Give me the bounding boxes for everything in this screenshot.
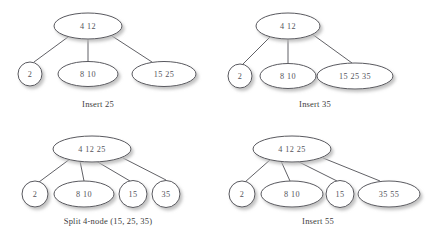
tree-node[interactable]: 4 12 [256, 13, 320, 39]
panel-nodes: 4 12 2528 101535 55 [229, 136, 420, 208]
node-keys-label: 8 10 [280, 72, 296, 81]
tree-edge [34, 37, 68, 62]
node-keys-label: 8 10 [284, 190, 300, 199]
node-keys-label: 2 [33, 190, 38, 199]
tree-node[interactable]: 2 [22, 181, 48, 207]
tree-node[interactable]: 8 10 [58, 62, 118, 87]
panel-caption: Insert 55 [302, 216, 334, 226]
nodes-layer: 4 1228 1015 254 1228 1015 25 354 12 2528… [18, 13, 420, 208]
panel-caption: Split 4-node (15, 25, 35) [64, 216, 153, 226]
panel-edges [245, 158, 380, 182]
tree-edge [123, 158, 166, 180]
tree-diagram-canvas: 4 1228 1015 254 1228 1015 25 354 12 2528… [0, 0, 436, 239]
tree-node[interactable]: 4 12 25 [53, 136, 131, 162]
panel-nodes: 4 12 2528 101535 [22, 136, 180, 208]
tree-node[interactable]: 8 10 [261, 181, 323, 207]
panel-caption: Insert 25 [82, 99, 114, 109]
tree-edge [245, 159, 271, 182]
tree-node[interactable]: 2 [228, 64, 252, 88]
panel-nodes: 4 1228 1015 25 35 [228, 13, 393, 89]
node-keys-label: 2 [240, 190, 245, 199]
node-keys-label: 4 12 25 [78, 145, 105, 154]
tree-node[interactable]: 15 [326, 181, 354, 208]
node-keys-label: 2 [28, 70, 33, 79]
tree-node[interactable]: 2 [229, 181, 255, 207]
tree-edge [312, 34, 352, 63]
tree-node[interactable]: 15 25 [132, 62, 196, 87]
tree-node[interactable]: 2 [18, 62, 42, 86]
node-keys-label: 35 55 [379, 190, 399, 199]
tree-node[interactable]: 35 55 [358, 181, 420, 207]
node-keys-label: 35 [162, 190, 171, 199]
tree-node[interactable]: 35 [152, 181, 180, 208]
node-keys-label: 8 10 [76, 190, 92, 199]
tree-node[interactable]: 8 10 [54, 181, 114, 207]
node-keys-label: 4 12 25 [278, 145, 305, 154]
tree-edge [112, 36, 152, 62]
tree-node[interactable]: 4 12 25 [253, 136, 331, 162]
node-keys-label: 15 25 35 [339, 72, 371, 81]
tree-node[interactable]: 8 10 [260, 64, 316, 89]
tree-edge [323, 158, 380, 181]
tree-edge [39, 159, 70, 182]
node-keys-label: 8 10 [80, 70, 96, 79]
panel-caption: Insert 35 [299, 99, 331, 109]
panel-nodes: 4 1228 1015 25 [18, 13, 196, 87]
tree-edge [297, 161, 337, 181]
tree-node[interactable]: 15 [119, 181, 147, 208]
node-keys-label: 15 [336, 190, 345, 199]
tree-edge [281, 161, 290, 181]
node-keys-label: 15 25 [154, 70, 174, 79]
tree-node[interactable]: 15 25 35 [317, 63, 393, 89]
panel-edges [34, 36, 152, 62]
tree-edge [96, 161, 130, 181]
node-keys-label: 4 12 [80, 22, 96, 31]
node-keys-label: 4 12 [280, 22, 296, 31]
tree-node[interactable]: 4 12 [54, 13, 122, 39]
tree-edge [80, 161, 84, 181]
tree-edge [243, 37, 270, 64]
node-keys-label: 2 [238, 72, 243, 81]
node-keys-label: 15 [129, 190, 138, 199]
